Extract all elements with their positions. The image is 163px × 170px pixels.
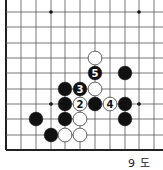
black-stone-move-5: 5 — [88, 66, 102, 80]
white-stone-move-2: 2 — [73, 97, 87, 111]
black-stone — [58, 112, 72, 126]
move-number: 4 — [107, 99, 114, 110]
diagram-caption: 9 도 — [128, 154, 152, 170]
move-number: 5 — [92, 68, 99, 79]
black-stone — [58, 97, 72, 111]
black-stone — [29, 112, 43, 126]
white-stone — [58, 128, 72, 142]
move-number: 3 — [77, 84, 84, 95]
white-stone — [88, 51, 102, 65]
black-stone — [58, 82, 72, 96]
star-point — [137, 10, 141, 14]
star-point — [49, 10, 53, 14]
white-stone — [88, 82, 102, 96]
black-stone-move-3: 3 — [73, 82, 87, 96]
grid-lines — [6, 0, 163, 150]
go-board: 5324 — [0, 0, 163, 155]
black-stone — [44, 128, 58, 142]
black-stone — [118, 66, 132, 80]
black-stone — [118, 112, 132, 126]
black-stone — [118, 97, 132, 111]
white-stone — [73, 128, 87, 142]
star-point — [137, 102, 141, 106]
black-stone — [88, 97, 102, 111]
star-point — [49, 102, 53, 106]
stones: 5324 — [29, 51, 132, 142]
move-number: 2 — [77, 99, 84, 110]
white-stone — [73, 112, 87, 126]
white-stone-move-4: 4 — [103, 97, 117, 111]
